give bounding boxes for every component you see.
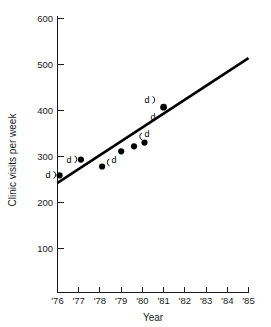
y-tick-label-600: 600 <box>37 13 53 24</box>
y-axis-tick-labels: 600 500 400 300 200 100 <box>37 13 53 254</box>
annotation-d-1980: d <box>150 112 155 122</box>
x-tick-label-1984: '84 <box>221 295 233 306</box>
annotation-brace-1976 <box>54 172 56 179</box>
y-tick-label-400: 400 <box>37 105 53 116</box>
x-tick-label-1977: '77 <box>73 295 85 306</box>
annotation-brace-1981 <box>153 97 155 104</box>
data-point-1979 <box>118 148 124 154</box>
chart-figure: 600 500 400 300 200 100 Clinic visits pe… <box>0 0 271 327</box>
annotation-d-1977: d <box>66 155 71 165</box>
data-point-1981 <box>160 104 167 111</box>
data-point-1977 <box>78 157 84 163</box>
annotation-d-1976: d <box>45 170 50 180</box>
annotation-d-1979-mid: d <box>144 129 149 139</box>
x-tick-label-1982: '82 <box>179 295 191 306</box>
data-point-1979-mid <box>131 143 137 149</box>
data-point-1976 <box>57 172 63 178</box>
clinic-visits-scatter-plot: 600 500 400 300 200 100 Clinic visits pe… <box>0 0 271 327</box>
x-tick-label-1978: '78 <box>94 295 106 306</box>
y-axis-ticks <box>58 19 64 249</box>
annotation-brace-1979-mid <box>140 133 142 140</box>
y-tick-label-200: 200 <box>37 197 53 208</box>
annotation-brace-1978 <box>107 159 109 166</box>
x-tick-label-1980: '80 <box>136 295 148 306</box>
x-axis-ticks <box>58 287 249 293</box>
y-axis-title: Clinic visits per week <box>7 113 18 207</box>
data-point-1978 <box>99 163 105 169</box>
x-tick-label-1981: '81 <box>157 295 169 306</box>
x-axis-title: Year <box>143 312 164 323</box>
y-axis-group: 600 500 400 300 200 100 Clinic visits pe… <box>7 13 64 293</box>
x-axis-group: '76 '77 '78 '79 '80 '81 '82 '83 '84 '85 … <box>51 287 254 323</box>
x-axis-tick-labels: '76 '77 '78 '79 '80 '81 '82 '83 '84 '85 <box>51 295 254 306</box>
x-tick-label-1983: '83 <box>200 295 212 306</box>
x-tick-label-1976: '76 <box>51 295 63 306</box>
data-point-1980 <box>141 140 147 146</box>
y-tick-label-100: 100 <box>37 243 53 254</box>
x-tick-label-1979: '79 <box>115 295 127 306</box>
y-tick-label-500: 500 <box>37 59 53 70</box>
annotation-d-1981: d <box>144 95 149 105</box>
annotation-brace-1977 <box>75 156 77 163</box>
x-tick-label-1985: '85 <box>242 295 254 306</box>
y-tick-label-300: 300 <box>37 151 53 162</box>
annotation-d-1978: d <box>111 155 116 165</box>
